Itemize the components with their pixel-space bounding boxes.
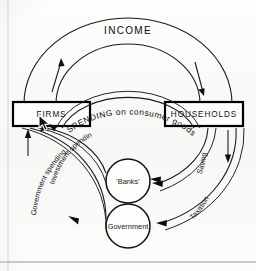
saving-flow: Saving (152, 128, 216, 191)
banks-inflow-arrow (150, 177, 161, 184)
households-label: HOUSEHOLDS (171, 110, 237, 119)
government-label: Government (108, 222, 149, 231)
income-title: INCOME (104, 25, 152, 36)
diagram-page: INCOME FIRMS HOUSEHOLDS SPEND (0, 0, 256, 271)
firms-label: FIRMS (37, 110, 67, 119)
banks-label: 'Banks' (116, 177, 140, 186)
circular-flow-diagram: INCOME FIRMS HOUSEHOLDS SPEND (0, 0, 256, 271)
income-arrow-right (195, 62, 205, 96)
saving-label: Saving (195, 152, 209, 175)
government-spending-flow: Government spending (22, 128, 106, 229)
income-inner-arc (56, 44, 200, 104)
taxation-arrowhead (156, 220, 167, 227)
firms-up-arrow (25, 129, 31, 156)
government-node[interactable]: Government (106, 204, 150, 248)
banks-node[interactable]: 'Banks' (106, 159, 150, 203)
households-down-arrow (225, 130, 231, 163)
saving-arc-inner (160, 128, 216, 191)
taxation-label: Taxation (188, 195, 211, 222)
govspend-arrowhead (68, 216, 79, 225)
